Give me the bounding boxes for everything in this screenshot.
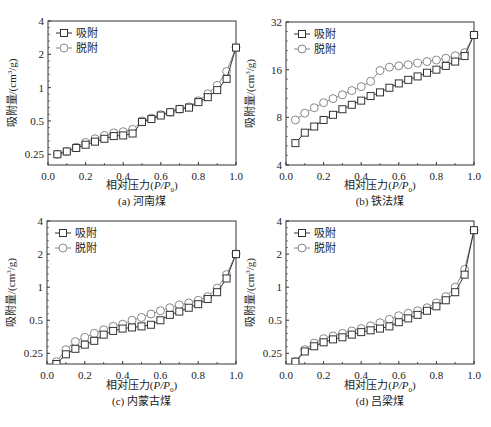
desorption-marker — [329, 95, 337, 103]
chart-panel-a: 0.00.20.40.60.81.00.250.5124吸附量/(cm3/g)相… — [5, 15, 243, 208]
desorption-marker — [71, 338, 79, 346]
desorption-marker — [291, 116, 299, 124]
chart-panel-c: 0.00.20.40.60.81.00.250.5124吸附量/(cm3/g)相… — [4, 215, 243, 408]
legend-adsorption: 吸附 — [314, 27, 336, 40]
adsorption-marker — [186, 104, 193, 111]
y-tick-label: 8 — [277, 111, 283, 123]
x-axis-label: 相对压力(P/P0) — [106, 178, 178, 194]
adsorption-marker — [157, 317, 164, 324]
adsorption-marker — [311, 123, 318, 130]
desorption-marker — [404, 61, 412, 69]
legend-square-icon — [60, 230, 67, 237]
y-tick-label: 1 — [38, 281, 44, 293]
adsorption-marker — [120, 132, 127, 139]
desorption-marker — [367, 77, 375, 85]
adsorption-marker — [53, 361, 60, 368]
panel-caption: (b) 铁法煤 — [356, 194, 405, 208]
adsorption-marker — [91, 337, 98, 344]
y-tick-label: 4 — [38, 215, 44, 227]
panel-caption: (d) 吕梁煤 — [356, 394, 405, 408]
adsorption-marker — [147, 321, 154, 328]
desorption-marker — [81, 333, 89, 341]
adsorption-marker — [214, 87, 221, 94]
adsorption-marker — [433, 303, 440, 310]
adsorption-marker — [386, 84, 393, 91]
x-tick-label: 0.0 — [41, 170, 55, 182]
y-tick-label: 32 — [271, 16, 282, 28]
adsorption-marker — [204, 296, 211, 303]
y-axis-label: 吸附量/(cm3/g) — [5, 58, 19, 127]
x-tick-label: 0.8 — [191, 369, 205, 381]
adsorption-marker — [81, 341, 88, 348]
adsorption-marker — [195, 301, 202, 308]
desorption-marker — [357, 83, 365, 91]
desorption-marker — [385, 63, 393, 71]
adsorption-marker — [139, 118, 146, 125]
adsorption-marker — [339, 106, 346, 113]
x-tick-label: 0.0 — [40, 369, 54, 381]
x-tick-label: 0.2 — [79, 170, 93, 182]
adsorption-marker — [320, 116, 327, 123]
adsorption-marker — [395, 319, 402, 326]
desorption-marker — [320, 99, 328, 107]
adsorption-marker — [452, 58, 459, 65]
adsorption-marker — [311, 343, 318, 350]
desorption-marker — [348, 87, 356, 95]
x-tick-label: 1.0 — [467, 369, 481, 381]
x-tick-label: 0.8 — [430, 369, 444, 381]
adsorption-marker — [424, 69, 431, 76]
legend-adsorption: 吸附 — [76, 26, 98, 39]
adsorption-marker — [405, 76, 412, 83]
adsorption-marker — [148, 116, 155, 123]
desorption-marker — [414, 59, 422, 67]
adsorption-marker — [377, 325, 384, 332]
legend: 吸附脱附 — [294, 27, 336, 55]
adsorption-marker — [301, 348, 308, 355]
adsorption-marker — [176, 106, 183, 113]
adsorption-marker — [73, 144, 80, 151]
adsorption-marker — [119, 325, 126, 332]
adsorption-marker — [62, 351, 69, 358]
y-tick-label: 0.25 — [24, 347, 44, 359]
x-tick-label: 1.0 — [229, 170, 243, 182]
adsorption-marker — [433, 66, 440, 73]
legend-circle-icon — [60, 44, 68, 52]
desorption-marker — [338, 91, 346, 99]
adsorption-marker — [367, 93, 374, 100]
x-tick-label: 0.0 — [279, 369, 293, 381]
legend-square-icon — [61, 30, 68, 37]
adsorption-marker — [358, 97, 365, 104]
adsorption-marker — [138, 323, 145, 330]
adsorption-marker — [233, 44, 240, 51]
x-tick-label: 0.2 — [78, 369, 92, 381]
adsorption-marker — [233, 251, 240, 258]
adsorption-marker — [330, 111, 337, 118]
adsorption-marker — [214, 289, 221, 296]
x-axis-label: 相对压力(P/P0) — [106, 378, 178, 394]
adsorption-marker — [386, 323, 393, 330]
desorption-marker — [442, 54, 450, 62]
adsorption-marker — [442, 62, 449, 69]
legend-adsorption: 吸附 — [75, 226, 97, 239]
adsorption-marker — [461, 53, 468, 60]
adsorption-marker — [471, 227, 478, 234]
legend: 吸附脱附 — [55, 226, 97, 254]
adsorption-marker — [223, 75, 230, 82]
adsorption-marker — [223, 275, 230, 282]
adsorption-marker — [72, 345, 79, 352]
legend-desorption: 脱附 — [75, 241, 97, 254]
figure-root: 0.00.20.40.60.81.00.250.5124吸附量/(cm3/g)相… — [0, 0, 491, 427]
desorption-marker — [376, 67, 384, 75]
adsorption-marker — [367, 327, 374, 334]
y-axis-label: 吸附量/(cm3/g) — [243, 59, 257, 128]
x-tick-label: 0.8 — [430, 170, 444, 182]
adsorption-marker — [292, 140, 299, 147]
y-tick-label: 16 — [271, 64, 283, 76]
y-tick-label: 1 — [39, 82, 45, 94]
desorption-marker — [138, 313, 146, 321]
adsorption-marker — [110, 327, 117, 334]
adsorption-marker — [54, 151, 61, 158]
chart-panel-d: 0.00.20.40.60.81.00.250.5124吸附量/(cm3/g)相… — [243, 215, 481, 408]
figure-svg: 0.00.20.40.60.81.00.250.5124吸附量/(cm3/g)相… — [0, 0, 491, 427]
desorption-marker — [90, 329, 98, 337]
